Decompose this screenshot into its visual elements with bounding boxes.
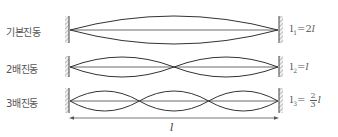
wave-upper <box>70 16 278 30</box>
left-wall <box>65 88 69 113</box>
label-second-harmonic: 2배진동 <box>6 61 38 76</box>
left-wall <box>65 16 69 43</box>
label-fundamental: 기본진동 <box>6 24 41 39</box>
fraction-two-thirds: 23 <box>310 92 317 109</box>
right-wall <box>279 16 283 43</box>
wave-row-third <box>65 88 283 113</box>
wave-row-fundamental <box>65 16 283 44</box>
length-label: l <box>170 121 174 134</box>
equation-wavelength-1: l1=2l <box>290 23 315 36</box>
wave-row-second <box>65 56 283 77</box>
standing-wave-diagram <box>0 0 338 137</box>
equation-wavelength-3: l3= 23l <box>290 92 321 109</box>
wave-lower <box>70 30 278 44</box>
label-third-harmonic: 3배진동 <box>6 95 38 110</box>
right-wall <box>279 56 283 77</box>
length-arrow <box>69 116 279 119</box>
equation-wavelength-2: l2=l <box>290 61 309 74</box>
right-wall <box>279 88 283 113</box>
left-wall <box>65 56 69 77</box>
